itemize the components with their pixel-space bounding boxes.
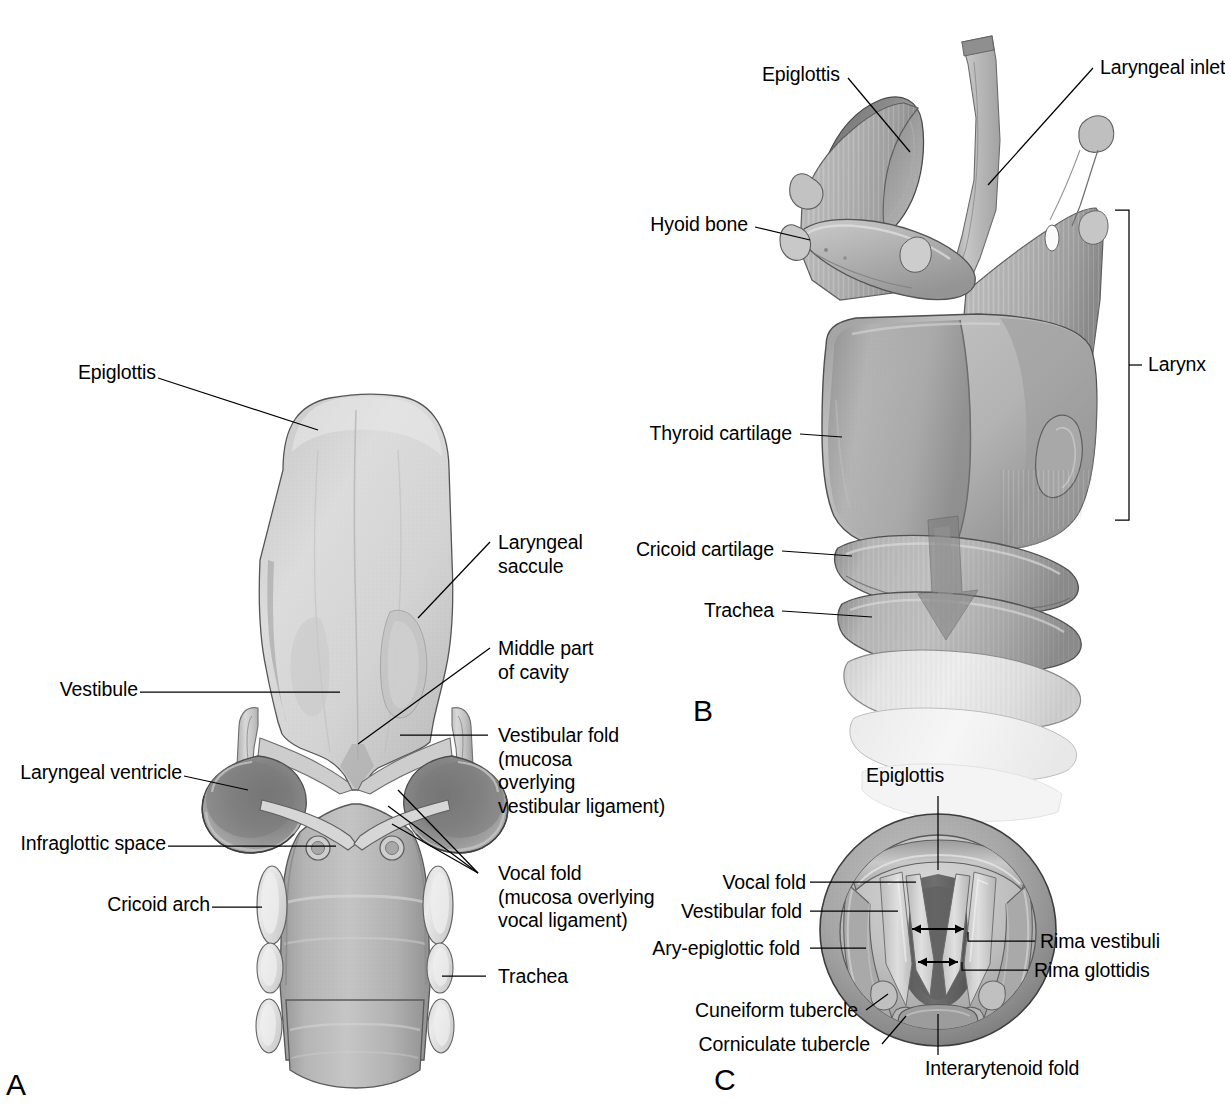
label-vestibular-fold-a: Vestibular fold (mucosa overlying vestib… [498,724,694,818]
label-rima-glottidis: Rima glottidis [1034,959,1214,983]
label-trachea-a: Trachea [498,965,618,989]
label-epiglottis-a: Epiglottis [0,361,156,385]
label-corniculate-tubercle: Corniculate tubercle [630,1033,870,1057]
label-vocal-fold-c: Vocal fold [660,871,806,895]
label-larynx: Larynx [1148,353,1224,377]
label-cuneiform-tubercle: Cuneiform tubercle [640,999,858,1023]
label-vestibular-fold-c: Vestibular fold [620,900,802,924]
label-rima-vestibuli: Rima vestibuli [1040,930,1220,954]
label-epiglottis-c: Epiglottis [866,764,1016,788]
panel-b-thyroid-cartilage [822,314,1100,560]
panel-a-epiglottis-vestibule [259,394,453,790]
panel-b-artwork [755,36,1142,821]
label-laryngeal-inlet: Laryngeal inlet [1100,56,1224,80]
label-vestibule: Vestibule [0,678,138,702]
label-epiglottis-b: Epiglottis [640,63,840,87]
label-laryngeal-ventricle: Laryngeal ventricle [0,761,182,785]
panel-b-larynx-bracket [1115,210,1142,520]
label-interarytenoid-fold: Interarytenoid fold [925,1057,1145,1081]
label-middle-part-of-cavity: Middle part of cavity [498,637,648,684]
label-ary-epiglottic-fold: Ary-epiglottic fold [600,937,800,961]
panel-letter-c: C [714,1063,736,1097]
label-cricoid-arch: Cricoid arch [0,893,210,917]
label-hyoid-bone: Hyoid bone [600,213,748,237]
panel-a-artwork [140,378,508,1088]
panel-letter-b: B [693,694,713,728]
label-thyroid-cartilage: Thyroid cartilage [600,422,792,446]
label-infraglottic-space: Infraglottic space [0,832,166,856]
panel-letter-a: A [6,1068,26,1102]
leader-epiglottis-a [158,378,318,430]
larynx-bracket-path [1115,210,1129,520]
leader-laryngeal-inlet [988,68,1093,185]
label-trachea-b: Trachea [600,599,774,623]
label-cricoid-cartilage: Cricoid cartilage [600,538,774,562]
panel-c-cuneiform-tubercle [871,981,898,1010]
